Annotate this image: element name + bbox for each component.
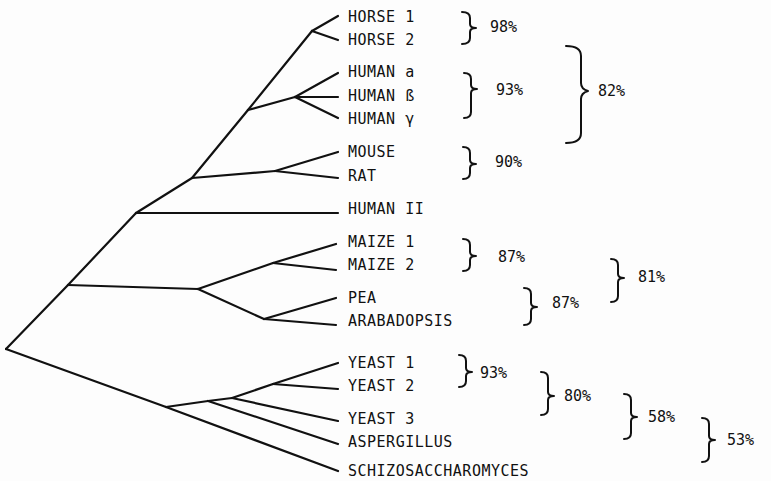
brace-horse-human — [566, 46, 588, 143]
identity-human: 93% — [496, 81, 523, 99]
branch-mouse — [275, 152, 338, 171]
branch-pea-ara-stem — [198, 289, 264, 319]
taxon-label-schizosaccharomyces: SCHIZOSACCHAROMYCES — [348, 462, 529, 480]
branch-rat — [275, 171, 338, 178]
taxon-label-pea: PEA — [348, 289, 377, 307]
branch-yeast-1 — [273, 363, 338, 384]
taxon-label-human-ii: HUMAN II — [348, 200, 424, 218]
identity-maize: 87% — [498, 248, 525, 266]
brace-mouse-rat — [463, 147, 476, 179]
branch-to-animals — [68, 213, 136, 285]
brace-yeast12 — [459, 355, 472, 387]
branch-root-fungi — [6, 349, 166, 407]
taxon-label-rat: RAT — [348, 167, 377, 185]
taxon-label-horse-2: HORSE 2 — [348, 31, 415, 49]
brace-human — [464, 73, 477, 118]
identity-mouse-rat: 90% — [495, 153, 522, 171]
taxon-label-mouse: MOUSE — [348, 143, 396, 161]
brace-pea-ara — [524, 288, 537, 325]
identity-yeast-1-2: 93% — [480, 364, 507, 382]
brace-yeast-asp — [624, 394, 637, 439]
identity-fungi-all: 53% — [727, 431, 754, 449]
branch-human-stem — [248, 97, 295, 110]
taxon-label-human-beta: HUMAN ß — [348, 87, 415, 105]
branch-yeast12-stem — [232, 384, 273, 398]
branch-yeast-clade — [208, 398, 232, 401]
branch-human-g — [295, 97, 338, 118]
branch-root-upper — [6, 285, 68, 349]
taxon-label-yeast-1: YEAST 1 — [348, 354, 415, 372]
taxon-label-horse-1: HORSE 1 — [348, 8, 415, 26]
branch-pea — [264, 298, 336, 319]
brace-horse — [462, 12, 476, 44]
brace-maize — [463, 239, 476, 271]
branch-animals-up — [136, 178, 192, 213]
taxon-label-human-alpha: HUMAN a — [348, 63, 415, 81]
branch-yeast-2 — [273, 384, 338, 389]
taxon-label-yeast-2: YEAST 2 — [348, 377, 415, 395]
identity-horse-human: 82% — [598, 82, 625, 100]
branch-arabadopsis — [264, 319, 336, 325]
branch-human-a — [295, 73, 338, 97]
identity-yeasts-aspergillus: 58% — [648, 408, 675, 426]
branch-horse-2 — [312, 31, 338, 40]
identity-yeasts: 80% — [564, 387, 591, 405]
branch-to-horse-human — [192, 110, 248, 178]
branch-to-horse — [248, 31, 312, 110]
branch-maize-2 — [273, 263, 336, 270]
brace-fungi-all — [702, 418, 715, 462]
phylogenetic-tree-figure: HORSE 1 HORSE 2 HUMAN a HUMAN ß HUMAN γ … — [0, 0, 771, 481]
brace-yeast123 — [541, 372, 554, 415]
branch-to-plants — [68, 285, 198, 289]
taxon-label-yeast-3: YEAST 3 — [348, 410, 415, 428]
branch-horse-1 — [312, 16, 338, 31]
taxon-label-aspergillus: ASPERGILLUS — [348, 433, 453, 451]
branch-maize-1 — [273, 244, 336, 263]
taxon-label-maize-2: MAIZE 2 — [348, 256, 415, 274]
brace-plants — [611, 259, 624, 302]
branch-mouse-rat-stem — [192, 171, 275, 178]
taxon-label-arabadopsis: ARABADOPSIS — [348, 312, 453, 330]
identity-horse: 98% — [490, 18, 517, 36]
taxon-label-human-gamma: HUMAN γ — [348, 110, 415, 128]
identity-pea-arabadopsis: 87% — [552, 294, 579, 312]
branch-maize-stem — [198, 263, 273, 289]
taxon-label-maize-1: MAIZE 1 — [348, 233, 415, 251]
branch-fungi-inner — [166, 401, 208, 407]
branch-yeast-3 — [232, 398, 338, 421]
identity-plants: 81% — [638, 268, 665, 286]
